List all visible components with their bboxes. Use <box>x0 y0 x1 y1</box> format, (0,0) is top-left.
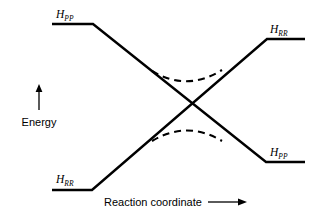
curve-hpp-diabatic <box>52 24 305 162</box>
state-label-subscript: PP <box>64 14 73 23</box>
up-arrow-icon <box>8 83 70 111</box>
state-label-subscript: RR <box>278 29 287 38</box>
right-arrow-icon <box>208 196 248 208</box>
curve-lower-adiabatic <box>152 131 222 142</box>
energy-diagram-figure: HPP HRR HRR HPP Energy Reaction coordina… <box>0 0 312 222</box>
state-label-subscript: RR <box>64 179 73 188</box>
state-label-hpp-top: HPP <box>56 9 74 21</box>
energy-axis-label: Energy <box>8 116 70 128</box>
energy-axis: Energy <box>8 83 70 128</box>
reaction-coordinate-axis: Reaction coordinate <box>104 196 248 208</box>
reaction-axis-label: Reaction coordinate <box>104 196 202 208</box>
state-label-hpp-bottom: HPP <box>270 147 288 159</box>
state-label-hrr-top: HRR <box>270 24 288 36</box>
state-label-hrr-bottom: HRR <box>56 174 74 186</box>
state-label-subscript: PP <box>278 152 287 161</box>
curve-hrr-diabatic <box>52 39 305 190</box>
